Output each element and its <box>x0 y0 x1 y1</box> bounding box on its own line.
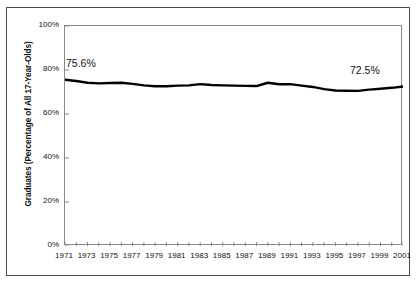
x-axis-tick-label: 1983 <box>190 251 208 260</box>
data-series-line <box>65 80 403 91</box>
y-axis-tick-label: 100% <box>19 20 59 29</box>
x-axis-tick-label: 1979 <box>145 251 163 260</box>
x-axis-tick-label: 1999 <box>371 251 389 260</box>
line-chart-svg <box>65 26 403 246</box>
x-axis-tick-label: 1973 <box>78 251 96 260</box>
y-axis-tick-label: 60% <box>19 108 59 117</box>
y-axis-tick-label: 20% <box>19 196 59 205</box>
x-axis-tick-label: 1975 <box>100 251 118 260</box>
y-axis-tick-label: 80% <box>19 64 59 73</box>
x-axis-tick-label: 1981 <box>168 251 186 260</box>
x-axis-tick-label: 1977 <box>123 251 141 260</box>
x-axis-tick-label: 1971 <box>55 251 73 260</box>
x-axis-tick-label: 1991 <box>280 251 298 260</box>
x-axis-tick-labels: 1971197319751977197919811983198519871989… <box>64 251 402 265</box>
x-axis-tick-label: 1985 <box>213 251 231 260</box>
x-axis-tick-label: 1995 <box>325 251 343 260</box>
chart-figure: Graduates (Percentage of All 17-Year-Old… <box>0 0 417 284</box>
x-axis-tick-label: 1987 <box>235 251 253 260</box>
y-axis-tick-label: 40% <box>19 152 59 161</box>
y-axis-tick-label: 0% <box>19 240 59 249</box>
x-axis-tick-label: 1993 <box>303 251 321 260</box>
x-axis-tick-label: 1989 <box>258 251 276 260</box>
annotation-end-value: 72.5% <box>350 64 380 76</box>
x-axis-tick-marks <box>65 242 403 246</box>
annotation-start-value: 75.6% <box>66 57 96 69</box>
x-axis-tick-label: 1997 <box>348 251 366 260</box>
plot-area <box>64 25 402 245</box>
x-axis-tick-label: 2001 <box>393 251 411 260</box>
